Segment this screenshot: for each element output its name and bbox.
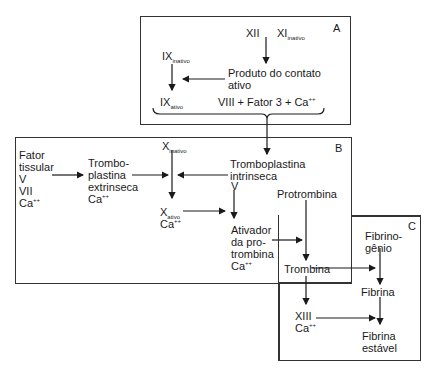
- connector-lines: [0, 0, 432, 371]
- factor-x-active: Xativo Ca++: [160, 206, 181, 230]
- extrinsic-thromboplastin-sup: ++: [102, 193, 109, 199]
- factor-xiii-ca: Ca: [295, 322, 309, 334]
- factor-xi-base: XI: [277, 27, 287, 39]
- extrinsic-thromboplastin-text: Trombo- plastina extrinseca Ca: [88, 157, 138, 205]
- factor-xi-inactive: XIinativo: [277, 27, 305, 39]
- factor-xi-sub: inativo: [287, 35, 304, 41]
- intrinsic-thromboplastin: Tromboplastina intrinseca: [230, 158, 305, 182]
- factor-ix-inactive-sub: inativo: [172, 58, 189, 64]
- fibrinogen: Fibrino- gênio: [365, 230, 402, 254]
- factor-x-inactive-sub: inativo: [169, 148, 186, 154]
- factor-ix-inactive-base: IX: [162, 50, 172, 62]
- factor-v: V: [231, 180, 238, 192]
- prothrombin: Protrombina: [277, 188, 337, 200]
- factor-ix-inactive: IXinativo: [162, 50, 190, 62]
- factor-ix-active-sub: ativo: [170, 104, 183, 110]
- viii-fator3-ca: VIII + Fator 3 + Ca++: [218, 96, 316, 108]
- tissue-factor-sup: ++: [33, 197, 40, 203]
- prothrombin-activator-sup: ++: [245, 260, 252, 266]
- factor-xii: XII: [246, 27, 259, 39]
- factor-x-inactive: Xinativo: [162, 140, 187, 152]
- factor-xiii-text: XIII: [295, 310, 312, 322]
- extrinsic-thromboplastin: Trombo- plastina extrinseca Ca++: [88, 157, 138, 205]
- factor-x-active-ca: Ca: [160, 218, 174, 230]
- factor-ix-active-base: IX: [160, 96, 170, 108]
- factor-x-active-sup: ++: [174, 218, 181, 224]
- viii-ca-sup: ++: [309, 96, 316, 102]
- fibrin: Fibrina: [361, 286, 395, 298]
- prothrombin-activator: Ativador da pro- trombina Ca++: [231, 224, 274, 272]
- factor-ix-active: IXativo: [160, 96, 183, 108]
- thrombin: Trombina: [284, 263, 330, 275]
- contact-product-active: Produto do contato ativo: [228, 67, 321, 91]
- prothrombin-activator-text: Ativador da pro- trombina Ca: [231, 224, 274, 272]
- factor-xiii: XIII Ca++: [295, 310, 316, 334]
- viii-fator3-text: VIII + Fator 3 + Ca: [218, 96, 309, 108]
- coagulation-cascade-diagram: A B C: [0, 0, 432, 371]
- tissue-factor: Fator tissular V VII Ca++: [19, 149, 54, 209]
- factor-xiii-sup: ++: [309, 322, 316, 328]
- stable-fibrin: Fibrina estável: [362, 330, 397, 354]
